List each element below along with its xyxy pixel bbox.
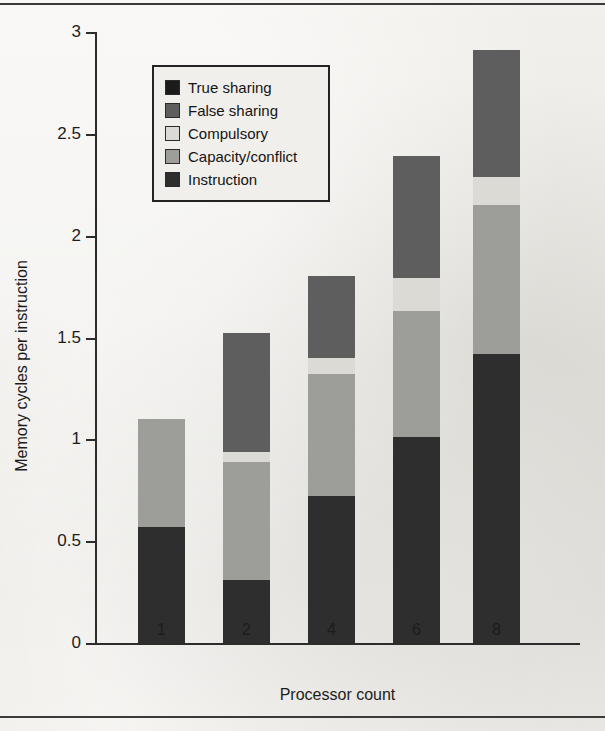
bar-segment-instruction: [473, 354, 520, 643]
legend-item: True sharing: [165, 76, 318, 99]
legend-item: Instruction: [165, 168, 318, 191]
x-axis-label: Processor count: [95, 686, 580, 704]
y-tick-label: 2: [72, 226, 81, 246]
bar-segment-compulsory: [473, 177, 520, 206]
bar-segment-capacity-conflict: [308, 374, 355, 496]
y-tick-mark: [86, 643, 95, 645]
legend-swatch-icon: [165, 126, 180, 141]
x-tick-label: 4: [327, 621, 336, 639]
legend-label: True sharing: [188, 79, 272, 96]
legend-swatch-icon: [165, 103, 180, 118]
figure-chart: Memory cycles per instruction Processor …: [0, 0, 605, 731]
bar-segment-capacity-conflict: [138, 419, 185, 527]
legend-swatch-icon: [165, 149, 180, 164]
bar-segment-compulsory: [393, 278, 440, 311]
y-axis-label: Memory cycles per instruction: [13, 260, 31, 472]
bar-1: [138, 419, 185, 643]
x-axis-line: [95, 643, 580, 645]
bar-segment-capacity-conflict: [393, 311, 440, 437]
bar-2: [223, 333, 270, 643]
bar-8: [473, 50, 520, 643]
page-rule-bottom: [0, 716, 605, 718]
bar-segment-false-sharing: [393, 156, 440, 278]
y-tick-mark: [86, 439, 95, 441]
bar-6: [393, 156, 440, 643]
y-tick-label: 1.5: [57, 328, 81, 348]
y-tick-mark: [86, 338, 95, 340]
x-tick-label: 6: [412, 621, 421, 639]
bar-segment-capacity-conflict: [473, 205, 520, 354]
x-tick-label: 1: [157, 621, 166, 639]
legend-label: Capacity/conflict: [188, 148, 297, 165]
legend-label: Instruction: [188, 171, 257, 188]
y-tick-mark: [86, 134, 95, 136]
y-tick-label: 2.5: [57, 124, 81, 144]
y-tick-mark: [86, 236, 95, 238]
y-tick-label: 1: [72, 429, 81, 449]
legend-label: Compulsory: [188, 125, 268, 142]
bar-segment-false-sharing: [223, 333, 270, 451]
legend-swatch-icon: [165, 80, 180, 95]
bar-segment-compulsory: [223, 452, 270, 462]
bar-segment-compulsory: [308, 358, 355, 374]
bar-segment-instruction: [393, 437, 440, 643]
y-tick-mark: [86, 541, 95, 543]
bar-segment-false-sharing: [473, 50, 520, 176]
bar-segment-capacity-conflict: [223, 462, 270, 580]
legend-label: False sharing: [188, 102, 278, 119]
y-tick-label: 0.5: [57, 531, 81, 551]
legend-item: Compulsory: [165, 122, 318, 145]
legend-item: False sharing: [165, 99, 318, 122]
page-rule-top: [0, 3, 605, 5]
x-tick-label: 2: [242, 621, 251, 639]
legend-swatch-icon: [165, 172, 180, 187]
chart-legend: True sharingFalse sharingCompulsoryCapac…: [152, 65, 330, 202]
y-tick-mark: [86, 32, 95, 34]
x-tick-label: 8: [492, 621, 501, 639]
legend-item: Capacity/conflict: [165, 145, 318, 168]
y-axis-line: [95, 32, 97, 645]
y-tick-label: 0: [72, 633, 81, 653]
bar-segment-false-sharing: [308, 276, 355, 357]
y-tick-label: 3: [72, 22, 81, 42]
bar-4: [308, 276, 355, 643]
